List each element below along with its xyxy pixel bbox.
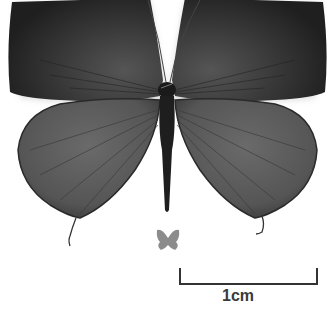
specimen-photo: 1cm bbox=[0, 0, 335, 315]
right-tail bbox=[256, 216, 264, 234]
left-hindwing bbox=[18, 99, 160, 218]
butterfly-illustration bbox=[0, 0, 335, 315]
scale-bar-label: 1cm bbox=[222, 287, 254, 305]
left-forewing bbox=[8, 0, 163, 101]
left-tail bbox=[69, 218, 76, 246]
right-forewing bbox=[172, 0, 327, 101]
right-hindwing bbox=[175, 99, 317, 218]
butterfly-body bbox=[158, 82, 176, 212]
life-size-butterfly-icon bbox=[157, 230, 179, 250]
scale-bar bbox=[180, 268, 317, 284]
